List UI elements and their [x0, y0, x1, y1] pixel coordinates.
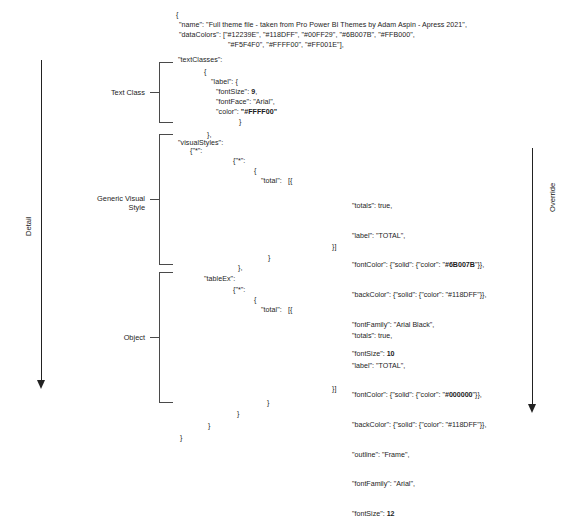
obj-font-color-pre: "fontColor": {"solid": {"color": " [352, 391, 445, 399]
code-name-line: "name": "Full theme file - taken from Pr… [179, 21, 467, 31]
bracket-generic-visual-style [159, 134, 173, 265]
obj-label: "label": "TOTAL", [352, 362, 486, 372]
override-axis-line [532, 148, 533, 406]
code-tail-close-1: } [267, 399, 269, 409]
gvs-back-color-post: "}}, [477, 291, 486, 299]
obj-font-size-pre: "fontSize": [352, 510, 387, 518]
gvs-back-color-value: #118DFF [448, 291, 477, 299]
detail-axis-label: Detail [24, 217, 33, 236]
panel-object: "totals": true, "label": "TOTAL", "fontC… [352, 312, 486, 520]
code-datacolors-line-1: "dataColors": ["#12239E", "#118DFF", "#0… [179, 31, 415, 41]
code-visualstyles-close-1: } [268, 254, 270, 264]
gvs-back-color: "backColor": {"solid": {"color": "#118DF… [352, 291, 486, 301]
code-visualstyles-star-2: {"*": [233, 157, 245, 167]
gvs-font-color-post: "}}, [475, 261, 484, 269]
gvs-font-color: "fontColor": {"solid": {"color": "#6B007… [352, 261, 486, 271]
code-textclasses-open: { [204, 68, 206, 78]
code-visualstyles-close-2: }, [238, 264, 242, 274]
code-tableex-key: "tableEx": [204, 275, 235, 285]
obj-font-color-value: #000000 [445, 391, 473, 399]
code-tableex-total: "total": [{ [261, 306, 292, 316]
gvs-totals: "totals": true, [352, 202, 486, 212]
bracket-text-class [159, 62, 173, 123]
gvs-label: "label": "TOTAL", [352, 232, 486, 242]
gvs-font-color-pre: "fontColor": {"solid": {"color": " [352, 261, 445, 269]
group-label-generic-visual-style: Generic Visual Style [50, 194, 145, 213]
code-datacolors-line-2: "#F5F4F0", "#FFFF00", "#FF001E"], [228, 41, 344, 51]
code-label-key: "label": { [211, 78, 238, 88]
code-tableex-brace: { [254, 296, 256, 306]
obj-font-color-post: "}}, [473, 391, 482, 399]
code-fontsize-line: "fontSize": 9, [216, 88, 257, 98]
obj-back-color-value: #118DFF [448, 421, 477, 429]
code-visualstyles-star-1: {"*": [190, 147, 202, 157]
code-label-close: } [239, 118, 241, 128]
obj-font-family: "fontFamily": "Arial", [352, 480, 486, 490]
obj-back-color-post: "}}, [477, 421, 486, 429]
code-visualstyles-total: "total": [{ [261, 177, 292, 187]
code-fontface-line: "fontFace": "Arial", [216, 98, 275, 108]
code-visualstyles-close-array: }] [332, 243, 336, 253]
bracket-tick-text-class [150, 92, 159, 93]
code-tail-close-4: } [180, 434, 182, 444]
code-tail-close-3: } [208, 422, 210, 432]
obj-totals: "totals": true, [352, 332, 486, 342]
code-color-line: "color": "#FFFF00" [216, 108, 277, 118]
override-axis-label: Override [548, 183, 557, 212]
obj-back-color-pre: "backColor": {"solid": {"color": " [352, 421, 448, 429]
group-label-text-class: Text Class [60, 88, 145, 97]
obj-back-color: "backColor": {"solid": {"color": "#118DF… [352, 421, 486, 431]
bracket-tick-generic-visual-style [150, 199, 159, 200]
gvs-font-color-value: #6B007B [445, 261, 475, 269]
obj-font-color: "fontColor": {"solid": {"color": "#00000… [352, 391, 486, 401]
detail-axis-arrowhead [37, 380, 45, 389]
obj-font-size-value: 12 [387, 510, 395, 518]
bracket-tick-object [150, 337, 159, 338]
code-tableex-close-array: }] [332, 385, 336, 395]
code-tail-close-2: } [237, 410, 239, 420]
code-textclasses-key: "textClasses": [178, 56, 222, 66]
detail-axis-line [41, 60, 42, 382]
obj-font-size: "fontSize": 12 [352, 510, 486, 520]
gvs-back-color-pre: "backColor": {"solid": {"color": " [352, 291, 448, 299]
code-open-brace: { [176, 11, 178, 21]
bracket-object [159, 272, 173, 403]
override-axis-arrowhead [528, 404, 536, 413]
obj-outline: "outline": "Frame", [352, 451, 486, 461]
code-tableex-star: {"*": [233, 286, 245, 296]
code-visualstyles-brace: { [254, 167, 256, 177]
group-label-object: Object [60, 333, 145, 342]
